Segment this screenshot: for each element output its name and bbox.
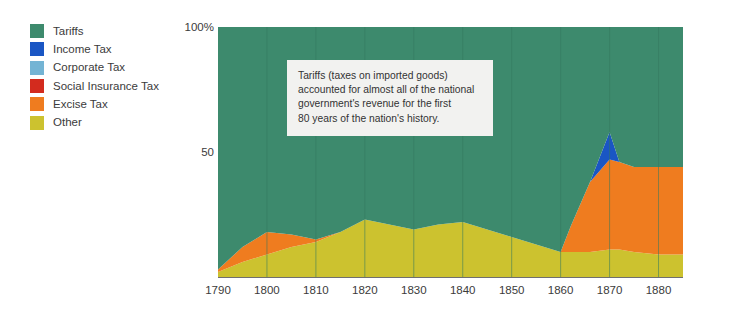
x-axis-tick-1830: 1830 bbox=[401, 284, 427, 296]
legend-swatch-excise-tax bbox=[30, 97, 44, 111]
legend-swatch-tariffs bbox=[30, 24, 44, 38]
x-axis-tick-1810: 1810 bbox=[303, 284, 329, 296]
x-axis-tick-1860: 1860 bbox=[548, 284, 574, 296]
revenue-sources-area-chart: TariffsIncome TaxCorporate TaxSocial Ins… bbox=[0, 0, 742, 318]
legend-item[interactable]: Other bbox=[30, 113, 200, 131]
legend-swatch-social-insurance-tax bbox=[30, 79, 44, 93]
x-axis-tick-labels: 1790180018101820183018401850186018701880 bbox=[218, 284, 683, 300]
legend-item[interactable]: Excise Tax bbox=[30, 95, 200, 113]
annotation-callout: Tariffs (taxes on imported goods) accoun… bbox=[287, 60, 493, 136]
legend-item[interactable]: Corporate Tax bbox=[30, 59, 200, 77]
y-axis-tick-100: 100% bbox=[172, 21, 214, 33]
legend-swatch-other bbox=[30, 116, 44, 130]
x-axis-tick-1840: 1840 bbox=[450, 284, 476, 296]
x-axis-tick-1870: 1870 bbox=[597, 284, 623, 296]
legend-item-label: Tariffs bbox=[53, 25, 83, 38]
y-axis-tick-50: 50 bbox=[172, 146, 214, 158]
legend-item[interactable]: Social Insurance Tax bbox=[30, 77, 200, 95]
legend-item-label: Social Insurance Tax bbox=[53, 80, 159, 93]
x-axis-tick-1850: 1850 bbox=[499, 284, 525, 296]
legend-item-label: Income Tax bbox=[53, 43, 112, 56]
legend-item-label: Corporate Tax bbox=[53, 61, 125, 74]
legend-item-label: Other bbox=[53, 116, 82, 129]
x-axis-tick-1820: 1820 bbox=[352, 284, 378, 296]
legend-item-label: Excise Tax bbox=[53, 98, 108, 111]
annotation-line-2: accounted for almost all of the national bbox=[298, 83, 482, 97]
legend-swatch-corporate-tax bbox=[30, 61, 44, 75]
legend-swatch-income-tax bbox=[30, 42, 44, 56]
x-axis-tick-1800: 1800 bbox=[254, 284, 280, 296]
x-axis-tick-1880: 1880 bbox=[646, 284, 672, 296]
x-axis-line bbox=[218, 277, 683, 278]
x-axis-tick-1790: 1790 bbox=[205, 284, 231, 296]
legend-item[interactable]: Income Tax bbox=[30, 40, 200, 58]
annotation-line-3: government's revenue for the first bbox=[298, 97, 482, 111]
chart-legend: TariffsIncome TaxCorporate TaxSocial Ins… bbox=[30, 22, 200, 132]
annotation-line-1: Tariffs (taxes on imported goods) bbox=[298, 69, 482, 83]
annotation-line-4: 80 years of the nation's history. bbox=[298, 112, 482, 126]
